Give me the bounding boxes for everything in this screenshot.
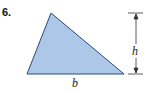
height-label: h xyxy=(132,44,138,59)
triangle xyxy=(27,13,124,74)
base-label: b xyxy=(72,76,78,91)
